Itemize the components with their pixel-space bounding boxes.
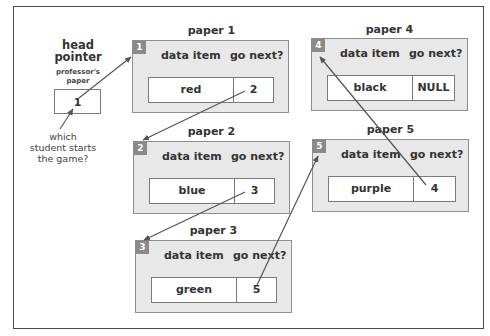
paper-1-node: 1 data item go next? red 2: [132, 40, 289, 113]
paper-1-data: red: [149, 78, 234, 102]
go-next-header: go next?: [230, 49, 283, 62]
head-pointer-question: which student starts the game?: [18, 131, 108, 164]
paper-4-record: black NULL: [327, 75, 455, 101]
paper-3-title: paper 3: [135, 224, 292, 237]
paper-1-title: paper 1: [133, 24, 290, 37]
paper-3-badge: 3: [136, 241, 149, 254]
data-item-header: data item: [161, 49, 221, 62]
paper-2-badge: 2: [134, 142, 147, 155]
paper-5-node: 5 data item go next? purple 4: [312, 139, 469, 212]
paper-1-next: 2: [234, 78, 273, 102]
paper-4-node: 4 data item go next? black NULL: [311, 38, 468, 111]
paper-3-record: green 5: [151, 277, 277, 303]
go-next-header: go next?: [231, 150, 284, 163]
head-pointer-title-line2: pointer: [35, 51, 121, 63]
paper-5-data: purple: [329, 177, 414, 201]
data-item-header: data item: [340, 47, 400, 60]
paper-4-data: black: [328, 76, 413, 100]
question-line3: the game?: [18, 153, 108, 164]
go-next-header: go next?: [409, 47, 462, 60]
question-line1: which: [18, 131, 108, 142]
go-next-header: go next?: [410, 148, 463, 161]
go-next-header: go next?: [233, 249, 286, 262]
data-item-header: data item: [164, 249, 224, 262]
paper-2-data: blue: [150, 179, 235, 203]
head-pointer-subtitle-line2: paper: [35, 77, 121, 86]
head-pointer-box: 1: [54, 89, 101, 114]
paper-4-title: paper 4: [311, 23, 468, 36]
paper-4-next: NULL: [413, 76, 454, 100]
paper-5-badge: 5: [313, 140, 326, 153]
head-pointer-subtitle-line1: professor's: [35, 68, 121, 77]
paper-4-badge: 4: [312, 39, 325, 52]
paper-3-node: 3 data item go next? green 5: [135, 240, 292, 313]
question-line2: student starts: [18, 142, 108, 153]
paper-5-title: paper 5: [312, 123, 469, 136]
paper-5-record: purple 4: [328, 176, 456, 202]
paper-3-next: 5: [237, 278, 276, 302]
paper-3-data: green: [152, 278, 237, 302]
paper-2-title: paper 2: [133, 125, 290, 138]
paper-1-record: red 2: [148, 77, 274, 103]
paper-5-next: 4: [414, 177, 455, 201]
data-item-header: data item: [162, 150, 222, 163]
paper-2-node: 2 data item go next? blue 3: [133, 141, 290, 214]
paper-2-record: blue 3: [149, 178, 275, 204]
paper-1-badge: 1: [133, 41, 146, 54]
paper-2-next: 3: [235, 179, 274, 203]
data-item-header: data item: [341, 148, 401, 161]
